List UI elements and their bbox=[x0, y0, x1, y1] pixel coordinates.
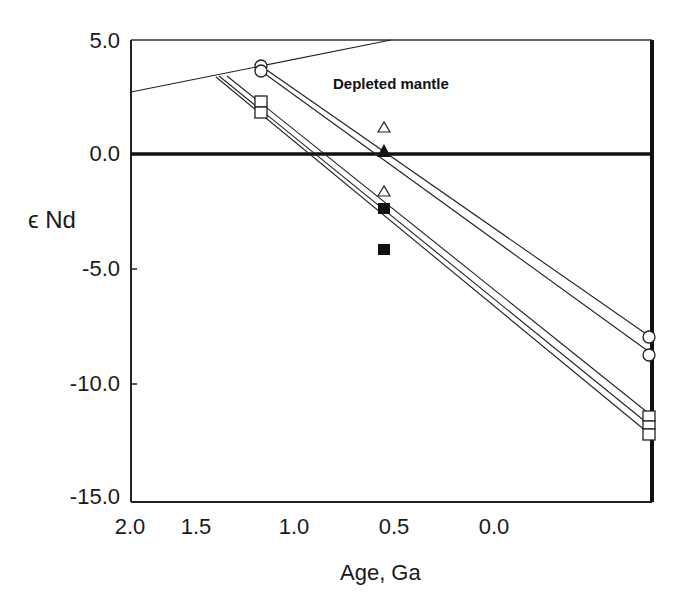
open-circle-marker bbox=[643, 349, 655, 361]
filled-triangle-marker bbox=[377, 144, 391, 157]
open-triangle-marker bbox=[378, 186, 390, 196]
x-axis-label: Age, Ga bbox=[340, 560, 421, 586]
y-tick-0: 0.0 bbox=[10, 141, 120, 167]
y-tick-5: 5.0 bbox=[10, 28, 120, 54]
x-tick-1.0: 1.0 bbox=[264, 514, 324, 540]
markers-1Ga bbox=[377, 122, 391, 255]
filled-square-marker bbox=[378, 244, 390, 255]
depleted-mantle-label: Depleted mantle bbox=[333, 75, 449, 92]
y-axis-label: ϵ Nd bbox=[28, 206, 76, 234]
x-tick-0.5: 0.5 bbox=[364, 514, 424, 540]
open-square-marker bbox=[643, 429, 655, 440]
x-tick-2.0: 2.0 bbox=[100, 514, 160, 540]
open-circle-marker bbox=[643, 331, 655, 343]
open-square-marker bbox=[643, 411, 655, 421]
y-tick-minus15: -15.0 bbox=[10, 484, 120, 510]
y-tick-minus10: -10.0 bbox=[10, 371, 120, 397]
evolution-lines bbox=[216, 66, 652, 436]
markers-1.5Ga bbox=[255, 60, 267, 118]
y-tick-minus5: -5.0 bbox=[10, 256, 120, 282]
open-circle-marker bbox=[255, 65, 267, 77]
x-tick-0.0: 0.0 bbox=[464, 514, 524, 540]
x-tick-1.5: 1.5 bbox=[166, 514, 226, 540]
open-square-marker bbox=[643, 421, 655, 429]
open-triangle-marker bbox=[378, 122, 390, 132]
open-square-marker bbox=[255, 96, 267, 107]
filled-square-marker bbox=[378, 203, 390, 214]
open-square-marker bbox=[255, 107, 267, 118]
